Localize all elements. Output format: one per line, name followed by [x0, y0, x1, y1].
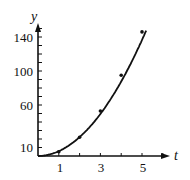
data-point-marker	[119, 73, 123, 77]
y-axis-arrow-icon	[35, 23, 41, 32]
x-tick-label-5: 5	[140, 160, 147, 175]
data-point-marker	[78, 136, 82, 140]
data-curve	[38, 31, 146, 156]
x-tick-label-3: 3	[98, 160, 105, 175]
y-tick-label-10: 10	[20, 140, 33, 155]
chart-container: t y 1 3 5 10 60 100 140	[0, 0, 190, 180]
data-points	[57, 30, 144, 153]
y-axis-label: y	[29, 9, 38, 24]
chart-svg: t y 1 3 5 10 60 100 140	[0, 0, 190, 180]
y-tick-label-100: 100	[14, 64, 34, 79]
data-point-marker	[99, 109, 103, 113]
x-tick-label-1: 1	[57, 160, 64, 175]
y-tick-label-60: 60	[20, 98, 33, 113]
x-axis-label: t	[174, 148, 179, 163]
y-tick-label-140: 140	[14, 30, 34, 45]
data-point-marker	[57, 150, 61, 154]
data-point-marker	[140, 30, 144, 34]
